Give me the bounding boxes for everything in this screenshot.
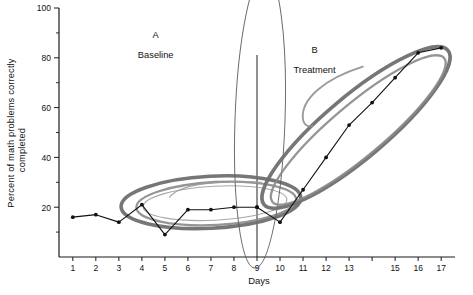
x-tick-label: 8	[232, 263, 237, 273]
chart-canvas: Percent of math problems correctlycomple…	[0, 0, 473, 295]
hand-drawn-annotations	[120, 0, 468, 269]
x-tick-label: 6	[186, 263, 191, 273]
data-point	[163, 233, 167, 237]
phase-b-label: B	[311, 45, 317, 55]
x-tick-label: 4	[140, 263, 145, 273]
y-tick-label: 20	[42, 203, 52, 213]
y-axis-title: Percent of math problems correctlycomple…	[6, 58, 27, 207]
data-point	[232, 205, 236, 209]
treatment-trend-ellipse	[244, 27, 468, 229]
phase-b-sublabel: Treatment	[294, 65, 336, 75]
data-point	[370, 101, 374, 105]
y-tick-label: 60	[42, 103, 52, 113]
treatment-trend-ellipse-inner	[256, 38, 461, 222]
x-tick-label: 3	[116, 263, 121, 273]
data-point	[255, 205, 259, 209]
data-point	[416, 51, 420, 55]
data-point	[393, 76, 397, 80]
phase-a-label: A	[153, 30, 160, 40]
y-axis-title-line2: completed	[17, 128, 27, 172]
y-tick-label: 100	[37, 3, 51, 13]
x-tick-label: 2	[93, 263, 98, 273]
data-point	[301, 188, 305, 192]
data-point	[278, 220, 282, 224]
x-tick-label: 5	[163, 263, 168, 273]
phase-labels: ABaselineBTreatment	[138, 30, 336, 75]
data-point	[140, 203, 144, 207]
data-point	[439, 46, 443, 50]
phase-a-sublabel: Baseline	[138, 50, 174, 60]
x-tick-label: 16	[413, 263, 423, 273]
y-axis-ticks: 20406080100	[37, 3, 59, 232]
chart-figure: Percent of math problems correctlycomple…	[0, 0, 473, 295]
x-axis-title-text: Days	[248, 275, 270, 286]
data-point	[94, 213, 98, 217]
x-tick-label: 10	[275, 263, 285, 273]
data-point	[71, 215, 75, 219]
x-tick-label: 12	[321, 263, 331, 273]
phase-change-ellipse	[230, 0, 290, 269]
data-point	[117, 220, 121, 224]
data-point	[324, 156, 328, 160]
y-axis-title-line1: Percent of math problems correctly	[6, 58, 16, 207]
data-point	[209, 208, 213, 212]
x-tick-label: 13	[344, 263, 354, 273]
x-tick-label: 7	[209, 263, 214, 273]
y-tick-label: 80	[42, 53, 52, 63]
x-axis-ticks: 12345678910111213151617	[70, 257, 446, 273]
data-point	[347, 123, 351, 127]
x-axis-title: Days	[248, 275, 270, 286]
y-tick-label: 40	[42, 153, 52, 163]
x-tick-label: 15	[390, 263, 400, 273]
x-tick-label: 1	[70, 263, 75, 273]
x-tick-label: 11	[299, 263, 308, 273]
data-point	[186, 208, 190, 212]
x-tick-label: 17	[436, 263, 446, 273]
